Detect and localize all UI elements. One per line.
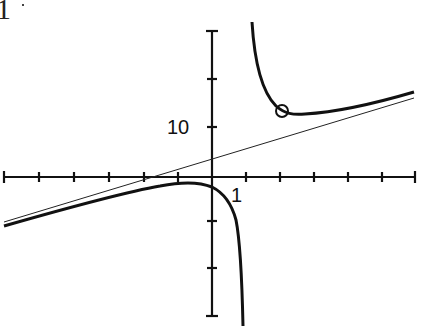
x-axis — [4, 171, 415, 183]
function-plot — [0, 0, 421, 331]
lower-branch-curve — [4, 183, 243, 326]
slant-asymptote — [4, 98, 414, 222]
x-tick-label-1: 1 — [231, 184, 242, 207]
y-axis — [206, 31, 218, 316]
y-tick-label-10: 10 — [167, 116, 189, 139]
upper-branch-curve — [252, 22, 414, 114]
